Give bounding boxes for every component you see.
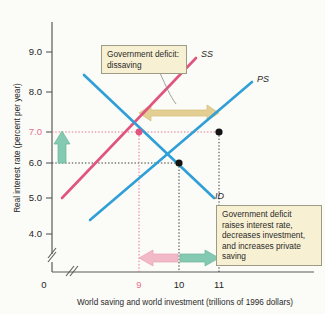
point-ps-at-rate-7 bbox=[215, 128, 222, 135]
curve-ss bbox=[62, 58, 196, 198]
callout-effects-line-1: Government deficit bbox=[222, 209, 317, 220]
callout-effects-line-3: decreases investment, bbox=[222, 230, 317, 241]
curve-id bbox=[84, 75, 214, 198]
callout-deficit-line-2: dissaving bbox=[107, 60, 182, 71]
callout-government-deficit-effects: Government deficit raises interest rate,… bbox=[216, 205, 322, 266]
private-saving-increase-arrow bbox=[180, 250, 219, 266]
y-tick-4: 4.0 bbox=[29, 228, 42, 239]
x-axis-title: World saving and world investment (trill… bbox=[77, 298, 293, 307]
y-tick-9: 9.0 bbox=[29, 46, 42, 57]
callout-deficit-line-1: Government deficit: bbox=[107, 49, 182, 60]
interest-rate-rise-arrow bbox=[54, 131, 70, 163]
y-tick-6: 6.0 bbox=[29, 157, 42, 168]
origin-label: 0 bbox=[41, 279, 46, 290]
y-tick-7: 7.0 bbox=[29, 126, 42, 137]
y-tick-8: 8.0 bbox=[29, 86, 42, 97]
y-axis-title: Real interest rate (percent per year) bbox=[13, 83, 22, 213]
y-tick-marks bbox=[46, 52, 52, 234]
x-axis-break-icon bbox=[66, 266, 78, 276]
callout-effects-line-2: raises interest rate, bbox=[222, 220, 317, 231]
curve-label-id: ID bbox=[215, 191, 225, 201]
deficit-gap-arrow bbox=[139, 105, 219, 121]
callout-effects-line-5: saving bbox=[222, 251, 317, 262]
curve-label-ps: PS bbox=[257, 74, 269, 84]
loanable-funds-diagram: 9.0 8.0 7.0 6.0 5.0 4.0 0 9 10 11 bbox=[0, 0, 325, 314]
point-ps-id-equilibrium bbox=[175, 159, 182, 166]
x-tick-10: 10 bbox=[174, 279, 185, 290]
callout-government-deficit-dissaving: Government deficit: dissaving bbox=[101, 45, 187, 74]
x-tick-9: 9 bbox=[136, 279, 141, 290]
investment-decrease-arrow bbox=[139, 250, 178, 266]
y-tick-5: 5.0 bbox=[29, 192, 42, 203]
curve-label-ss: SS bbox=[201, 49, 213, 59]
point-ss-id-equilibrium bbox=[136, 129, 143, 136]
callout-effects-line-4: and increases private bbox=[222, 241, 317, 252]
x-tick-11: 11 bbox=[214, 279, 224, 290]
